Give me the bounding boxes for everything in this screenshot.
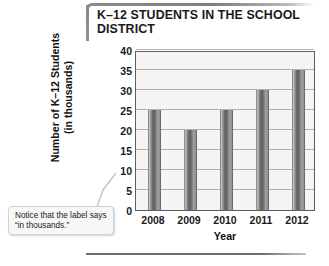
y-axis-tick-label: 40 [110, 46, 132, 56]
page-title: K–12 STUDENTS IN THE SCHOOL DISTRICT [97, 8, 312, 36]
y-axis-title: Number of K–12 Students (in thousands) [49, 23, 74, 173]
y-axis-tick-label: 20 [110, 126, 132, 136]
callout-note: Notice that the label says “in thousands… [8, 206, 114, 235]
callout-leader-line [96, 172, 118, 208]
y-axis-title-line1: Number of K–12 Students [49, 23, 62, 173]
x-axis-tick-label: 2008 [136, 214, 170, 226]
bar [256, 90, 269, 210]
x-axis-tick-label: 2011 [244, 214, 278, 226]
y-axis-title-line2: (in thousands) [61, 23, 74, 173]
x-axis-tick-label: 2009 [172, 214, 206, 226]
bar [184, 130, 197, 210]
x-axis-title: Year [135, 230, 315, 242]
bar [292, 70, 305, 210]
x-axis-tick-labels: 20082009201020112012 [135, 214, 315, 228]
y-axis-tick-label: 15 [110, 146, 132, 156]
bar-series [136, 52, 314, 210]
title-top-rule [92, 3, 314, 6]
x-axis-tick-label: 2012 [280, 214, 314, 226]
bar [148, 110, 161, 210]
y-axis-tick-label: 30 [110, 86, 132, 96]
y-axis-tick-label: 25 [110, 106, 132, 116]
plot-area [135, 51, 315, 211]
chart-title-block: K–12 STUDENTS IN THE SCHOOL DISTRICT [86, 3, 318, 43]
bar [220, 110, 233, 210]
bottom-rule [86, 253, 306, 255]
y-axis-tick-label: 35 [110, 66, 132, 76]
x-axis-tick-label: 2010 [208, 214, 242, 226]
gridline [136, 49, 314, 50]
